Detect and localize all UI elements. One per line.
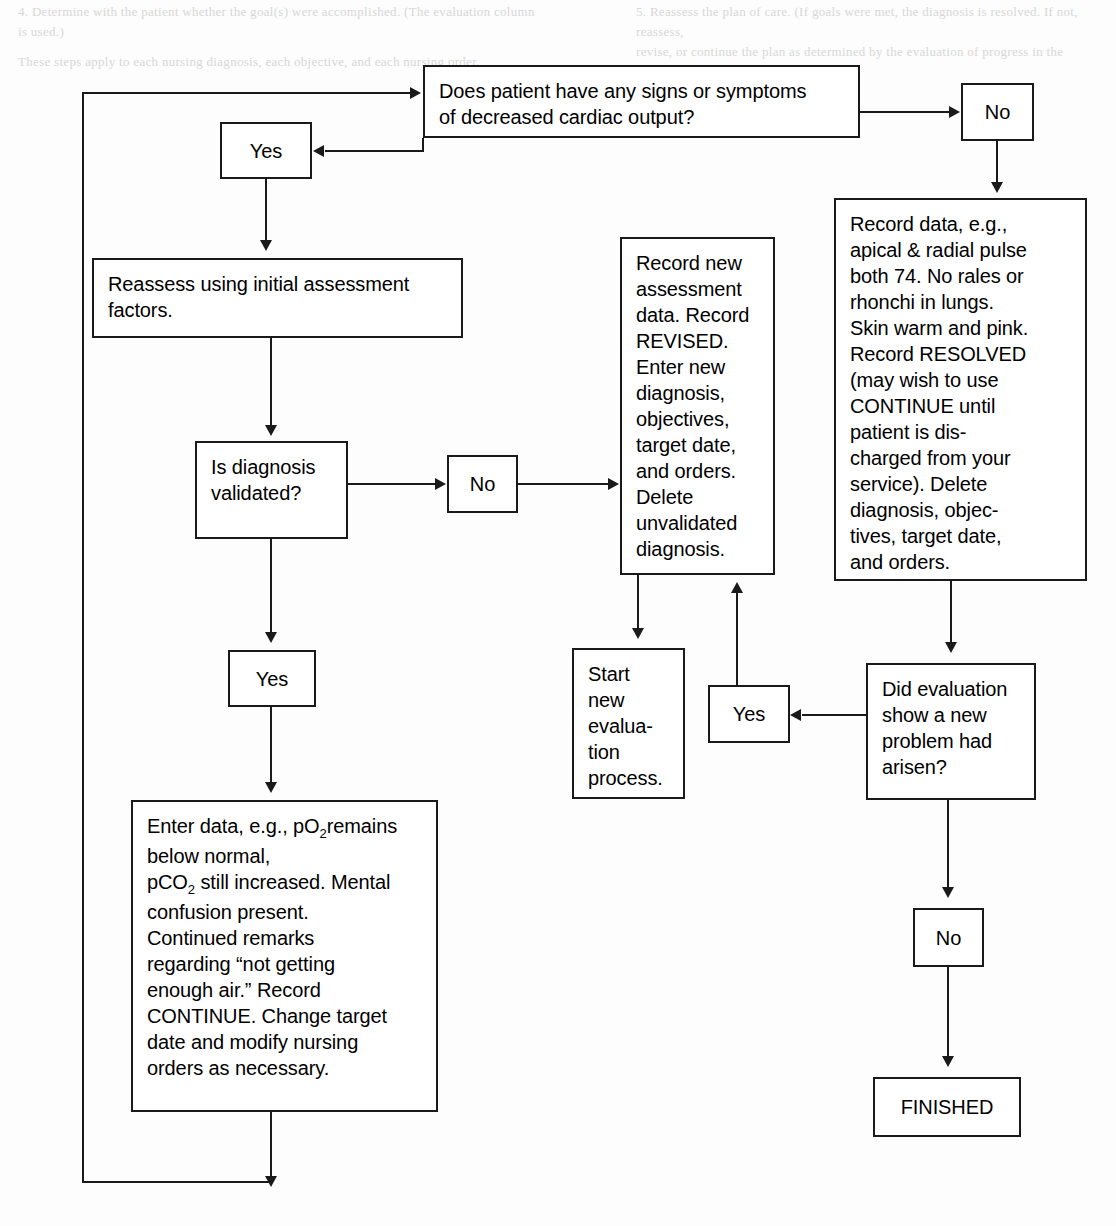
arrowhead-yes-new-problem-to-record-new-assessment <box>731 582 743 593</box>
arrowhead-question-to-no <box>949 106 960 118</box>
node-no-top[interactable]: No <box>961 83 1034 141</box>
node-no-new-problem[interactable]: No <box>913 908 984 967</box>
node-yes-new-problem[interactable]: Yes <box>708 685 790 743</box>
connector-question-to-no-horizontal <box>860 111 949 113</box>
connector-no-to-finished <box>947 967 949 1059</box>
arrowhead-new-problem-to-no <box>942 887 954 898</box>
node-no-new-problem-label: No <box>930 925 967 951</box>
node-question-cardiac-output[interactable]: Does patient have any signs or symptoms … <box>423 65 860 138</box>
connector-reassess-to-validated <box>270 338 272 428</box>
connector-feedback-left-vertical <box>82 92 84 1183</box>
node-enter-data-continue-label: Enter data, e.g., pO2remains below norma… <box>133 802 436 1089</box>
arrowhead-feedback-to-question <box>410 87 421 99</box>
node-question-new-problem-label: Did evaluation show a new problem had ar… <box>868 665 1034 788</box>
arrowhead-validated-to-yes <box>265 632 277 643</box>
node-enter-data-continue[interactable]: Enter data, e.g., pO2remains below norma… <box>131 800 438 1112</box>
node-yes-validated-label: Yes <box>250 666 294 692</box>
connector-feedback-top-horizontal <box>82 92 411 94</box>
node-finished[interactable]: FINISHED <box>873 1077 1021 1137</box>
node-question-cardiac-output-label: Does patient have any signs or symptoms … <box>425 67 858 138</box>
arrowhead-no-to-finished <box>942 1056 954 1067</box>
node-no-top-label: No <box>979 99 1016 125</box>
connector-yes-new-problem-to-record-new-assessment <box>736 592 738 686</box>
connector-no-to-record-new-assessment <box>518 483 608 485</box>
arrowhead-validated-to-no <box>435 478 446 490</box>
arrowhead-yes-to-enter-data <box>265 782 277 793</box>
connector-validated-to-yes <box>270 539 272 635</box>
arrowhead-reassess-to-validated <box>265 425 277 436</box>
arrowhead-new-problem-to-yes <box>790 709 801 721</box>
node-yes-new-problem-label: Yes <box>727 701 771 727</box>
connector-feedback-enter-data-down <box>270 1112 272 1183</box>
node-question-diagnosis-validated-label: Is diagnosis validated? <box>197 443 346 514</box>
arrowhead-record-data-to-new-problem <box>945 642 957 653</box>
connector-new-problem-to-yes <box>802 714 867 716</box>
node-yes-top[interactable]: Yes <box>220 122 312 179</box>
node-record-data-resolved-label: Record data, e.g., apical & radial pulse… <box>836 200 1085 583</box>
node-yes-validated[interactable]: Yes <box>228 650 316 707</box>
enter-data-sub2: 2 <box>188 882 195 897</box>
node-no-not-validated-label: No <box>464 471 501 497</box>
connector-feedback-bottom-horizontal <box>82 1181 272 1183</box>
connector-no-to-record-data <box>996 141 998 184</box>
node-start-new-evaluation-label: Start new evalua- tion process. <box>574 650 683 799</box>
node-finished-label: FINISHED <box>895 1094 1000 1120</box>
connector-new-problem-to-no <box>947 800 949 890</box>
node-reassess-label: Reassess using initial assessment factor… <box>94 260 461 331</box>
connector-yes-to-reassess <box>265 179 267 243</box>
node-question-new-problem[interactable]: Did evaluation show a new problem had ar… <box>866 663 1036 800</box>
flowchart-canvas: 4. Determine with the patient whether th… <box>0 0 1116 1226</box>
node-question-diagnosis-validated[interactable]: Is diagnosis validated? <box>195 441 348 539</box>
node-record-new-assessment-label: Record new assessment data. Record REVIS… <box>622 239 773 570</box>
connector-record-new-assessment-to-start <box>637 575 639 631</box>
node-record-data-resolved[interactable]: Record data, e.g., apical & radial pulse… <box>834 198 1087 581</box>
connector-record-data-to-new-problem <box>950 581 952 645</box>
connector-yes-to-enter-data <box>270 707 272 785</box>
enter-data-sub1: 2 <box>320 826 327 841</box>
node-record-new-assessment[interactable]: Record new assessment data. Record REVIS… <box>620 237 775 575</box>
bleed-through-text-top-left: 4. Determine with the patient whether th… <box>18 2 618 42</box>
node-no-not-validated[interactable]: No <box>447 455 518 513</box>
node-yes-top-label: Yes <box>244 138 288 164</box>
arrowhead-yes-to-reassess <box>260 240 272 251</box>
connector-validated-to-no <box>348 483 435 485</box>
arrowhead-no-to-record-data <box>991 182 1003 193</box>
enter-data-line3: still increased. Mental confusion presen… <box>147 871 390 1079</box>
arrowhead-question-to-yes <box>313 145 324 157</box>
arrowhead-no-to-record-new-assessment <box>608 478 619 490</box>
node-start-new-evaluation[interactable]: Start new evalua- tion process. <box>572 648 685 799</box>
node-reassess[interactable]: Reassess using initial assessment factor… <box>92 258 463 338</box>
connector-question-to-yes-horizontal <box>325 150 424 152</box>
arrowhead-record-new-assessment-to-start <box>632 628 644 639</box>
enter-data-line1: Enter data, e.g., pO <box>147 815 320 837</box>
